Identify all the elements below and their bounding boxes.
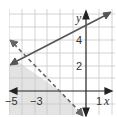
x-tick-label-neg5: −5 xyxy=(5,95,18,107)
inequality-graph: −5 −3 1 x 4 2 y xyxy=(0,0,117,117)
x-tick-label-1: 1 xyxy=(96,95,102,107)
y-axis-label: y xyxy=(75,11,82,25)
y-axis-arrow-down xyxy=(83,108,89,116)
solid-line-arrow-right xyxy=(103,12,111,19)
y-tick-label-4: 4 xyxy=(76,34,82,46)
shaded-region xyxy=(9,61,83,117)
x-axis-label: x xyxy=(103,94,110,108)
y-axis-arrow-up xyxy=(83,11,89,19)
y-tick-label-2: 2 xyxy=(76,60,82,72)
x-tick-label-neg3: −3 xyxy=(30,95,43,107)
solid-line-arrow-left xyxy=(10,58,18,65)
solid-boundary-line xyxy=(10,12,111,65)
